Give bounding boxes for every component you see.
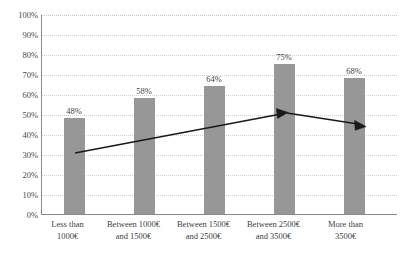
y-axis-tick-80: 80% [4, 51, 38, 60]
y-axis-tick-50: 50% [4, 111, 38, 120]
x-axis-label-2500-3500: Between 2500€ and 3500€ [232, 219, 315, 242]
y-axis-tick-60: 60% [4, 91, 38, 100]
y-axis-tick-20: 20% [4, 171, 38, 180]
bar-less-than-1000[interactable] [64, 118, 85, 214]
y-axis-tick-10: 10% [4, 191, 38, 200]
bar-value-label-4: 75% [267, 53, 301, 62]
bar-1500-2500[interactable] [204, 86, 225, 214]
y-axis-tick-90: 90% [4, 31, 38, 40]
bar-value-label-2: 58% [127, 87, 161, 96]
bar-1000-1500[interactable] [134, 98, 155, 214]
y-axis-tick-30: 30% [4, 151, 38, 160]
plot-area: 48% 58% 64% 75% 68% [41, 15, 397, 215]
x-axis-label-line-2: 3500€ [308, 231, 383, 243]
bar-value-label-5: 68% [337, 67, 371, 76]
gridline-80 [42, 55, 397, 56]
y-axis-tick-40: 40% [4, 131, 38, 140]
bar-chart: 100% 90% 80% 70% 60% 50% 40% 30% 20% 10%… [0, 0, 410, 257]
gridline-100 [42, 15, 397, 16]
bar-2500-3500[interactable] [274, 64, 295, 214]
x-axis-label-line-1: Between 2500€ [232, 219, 315, 231]
bar-value-label-3: 64% [197, 75, 231, 84]
bar-value-label-1: 48% [57, 107, 91, 116]
y-axis-tick-70: 70% [4, 71, 38, 80]
x-axis-label-line-1: More than [308, 219, 383, 231]
x-axis-label-more-than-3500: More than 3500€ [308, 219, 383, 242]
x-axis-label-line-2: and 3500€ [232, 231, 315, 243]
bar-more-than-3500[interactable] [344, 78, 365, 214]
y-axis-tick-100: 100% [4, 11, 38, 20]
gridline-90 [42, 35, 397, 36]
